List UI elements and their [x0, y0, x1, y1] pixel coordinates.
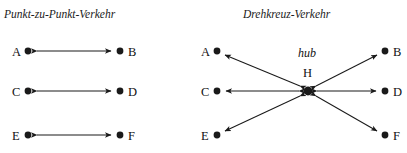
- node-dot-c: [214, 88, 221, 95]
- node-dot-b: [382, 48, 389, 55]
- node-dot-b: [117, 48, 124, 55]
- node-dot-f: [117, 132, 124, 139]
- node-label-a: A: [201, 46, 210, 59]
- node-label-d: D: [393, 86, 402, 99]
- node-label-f: F: [393, 130, 400, 143]
- node-label-c: C: [201, 86, 209, 99]
- node-dot-a: [25, 48, 32, 55]
- node-dot-a: [214, 48, 221, 55]
- node-dot-e: [214, 132, 221, 139]
- hub-node-label-h: H: [303, 67, 312, 80]
- edge-group-hub-and-spoke: [225, 55, 377, 131]
- node-dot-group-point-to-point: [25, 48, 124, 139]
- node-dot-d: [382, 88, 389, 95]
- figure-canvas: Punkt-zu-Punkt-Verkehr Drehkreuz-Verkehr…: [0, 0, 407, 153]
- node-dot-d: [117, 88, 124, 95]
- edge-group-point-to-point: [37, 51, 111, 135]
- node-dot-f: [382, 132, 389, 139]
- node-label-e: E: [12, 130, 20, 143]
- node-dot-c: [25, 88, 32, 95]
- hub-node-dot-h: [304, 87, 313, 96]
- node-dot-e: [25, 132, 32, 139]
- node-label-d: D: [128, 86, 137, 99]
- edge-h-e: [225, 96, 300, 131]
- node-label-c: C: [12, 86, 20, 99]
- node-label-b: B: [128, 46, 136, 59]
- node-label-a: A: [12, 46, 21, 59]
- edge-h-b: [316, 55, 377, 86]
- edge-h-f: [316, 96, 377, 131]
- node-label-e: E: [201, 130, 209, 143]
- node-label-f: F: [128, 130, 135, 143]
- edge-h-a: [225, 55, 300, 86]
- node-label-b: B: [393, 46, 401, 59]
